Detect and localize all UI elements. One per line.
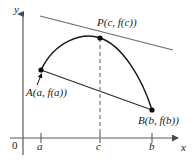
tick-label-a: a: [37, 141, 43, 152]
tick-label-b: b: [149, 141, 155, 152]
label-a-pointer-icon: [37, 74, 42, 85]
point-B-label: B(b, f(b)): [138, 115, 179, 126]
point-P-marker: [97, 35, 102, 40]
mvt-figure: y x 0 a c b A(a, f(a)) P(c, f(c)) B(b, f…: [0, 0, 194, 164]
tick-label-c: c: [96, 141, 101, 152]
y-axis-label: y: [14, 4, 19, 15]
x-axis-label: x: [181, 142, 186, 153]
point-A-marker: [38, 67, 43, 72]
point-P-label: P(c, f(c)): [97, 17, 137, 28]
function-curve: [41, 36, 152, 110]
origin-label: 0: [12, 140, 18, 151]
point-A-label: A(a, f(a)): [26, 87, 67, 98]
point-B-marker: [149, 107, 154, 112]
